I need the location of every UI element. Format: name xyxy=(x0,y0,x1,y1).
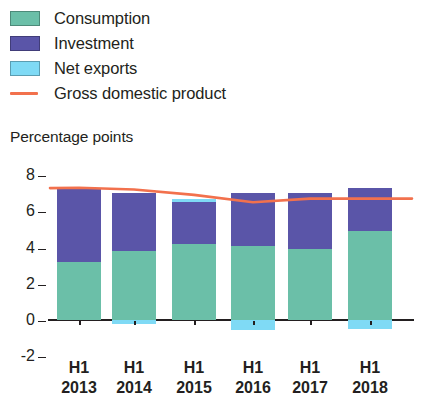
x-axis-labels: H12013H12014H12015H12016H12017H12018 xyxy=(0,358,422,407)
legend-item-consumption: Consumption xyxy=(10,6,410,31)
x-axis-label-year: 2015 xyxy=(164,378,224,398)
gdp-line-marker-icon xyxy=(10,92,38,95)
gdp-overlay-line xyxy=(0,150,422,355)
gdp-line-path xyxy=(50,188,412,203)
x-axis-label-half: H1 xyxy=(164,358,224,378)
legend-item-investment: Investment xyxy=(10,31,410,56)
x-axis-label-2018: H12018 xyxy=(340,358,400,398)
chart-plot-area: 86420-2 xyxy=(0,150,422,355)
x-axis-label-half: H1 xyxy=(223,358,283,378)
x-axis-label-half: H1 xyxy=(104,358,164,378)
x-axis-label-2013: H12013 xyxy=(49,358,109,398)
x-axis-label-2017: H12017 xyxy=(280,358,340,398)
x-axis-label-half: H1 xyxy=(340,358,400,378)
legend-label-net-exports: Net exports xyxy=(54,60,137,77)
y-axis-title: Percentage points xyxy=(10,128,133,146)
x-axis-label-half: H1 xyxy=(280,358,340,378)
x-axis-label-half: H1 xyxy=(49,358,109,378)
x-axis-label-2016: H12016 xyxy=(223,358,283,398)
x-axis-label-2015: H12015 xyxy=(164,358,224,398)
legend-swatch-consumption xyxy=(10,11,40,26)
x-axis-label-year: 2018 xyxy=(340,378,400,398)
x-axis-label-year: 2014 xyxy=(104,378,164,398)
legend-swatch-investment xyxy=(10,36,40,51)
chart-legend: Consumption Investment Net exports Gross… xyxy=(10,6,410,106)
legend-swatch-net-exports xyxy=(10,61,40,76)
x-axis-label-2014: H12014 xyxy=(104,358,164,398)
legend-line-gdp xyxy=(10,86,40,101)
x-axis-label-year: 2013 xyxy=(49,378,109,398)
x-axis-label-year: 2016 xyxy=(223,378,283,398)
legend-label-consumption: Consumption xyxy=(54,10,150,27)
x-axis-label-year: 2017 xyxy=(280,378,340,398)
legend-label-investment: Investment xyxy=(54,35,134,52)
legend-item-net-exports: Net exports xyxy=(10,56,410,81)
legend-label-gross-domestic-product: Gross domestic product xyxy=(54,85,226,102)
legend-item-gross-domestic-product: Gross domestic product xyxy=(10,81,410,106)
